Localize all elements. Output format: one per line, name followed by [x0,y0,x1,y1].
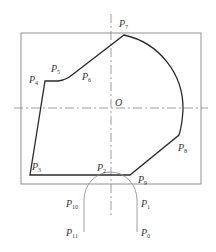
label-p4: P4 [28,74,38,86]
label-p10: P10 [65,198,78,210]
origin-label: O [115,97,122,108]
label-p1: P1 [140,198,150,210]
label-p6: P6 [81,71,91,83]
label-p7: P7 [118,18,128,30]
profile-diagram: O P0 P1 P2 P3 P4 P5 P6 P7 P8 P9 P10 P11 [0,0,216,252]
label-p9: P9 [137,174,147,186]
label-p11: P11 [65,227,78,239]
point-labels: P0 P1 P2 P3 P4 P5 P6 P7 P8 P9 P10 P11 [28,18,187,239]
label-p5: P5 [50,63,60,75]
tool-outline [84,172,137,232]
label-p0: P0 [140,227,150,239]
workpiece-profile [30,35,183,175]
label-p8: P8 [177,142,187,154]
label-p2: P2 [96,162,106,174]
label-p3: P3 [31,161,41,173]
